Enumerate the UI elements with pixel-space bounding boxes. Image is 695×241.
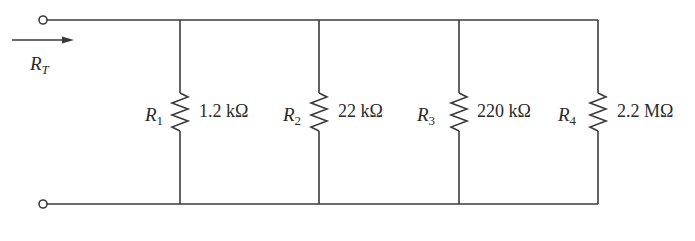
resistor-r4-zigzag [590, 93, 606, 131]
top-terminal [39, 16, 47, 24]
rt-label: RT [29, 53, 50, 77]
circuit-diagram: RT R1 1.2 kΩ R2 22 kΩ R3 220 kΩ R4 2.2 M… [0, 0, 695, 241]
r4-value: 2.2 MΩ [617, 101, 673, 121]
r3-value: 220 kΩ [477, 101, 531, 121]
resistor-r1-zigzag [172, 93, 188, 131]
resistor-r3-branch [451, 20, 467, 204]
resistor-r4-branch [590, 20, 606, 204]
r2-value: 22 kΩ [338, 101, 383, 121]
r2-label: R2 [282, 104, 301, 128]
r1-value: 1.2 kΩ [199, 101, 248, 121]
resistor-r1-branch [172, 20, 188, 204]
arrow-right-icon [62, 37, 74, 44]
bottom-terminal [39, 200, 47, 208]
resistor-r2-branch [311, 20, 327, 204]
r4-label: R4 [557, 104, 577, 128]
r3-label: R3 [416, 104, 435, 128]
r1-label: R1 [144, 104, 163, 128]
resistor-r2-zigzag [311, 93, 327, 131]
resistor-r3-zigzag [451, 93, 467, 131]
